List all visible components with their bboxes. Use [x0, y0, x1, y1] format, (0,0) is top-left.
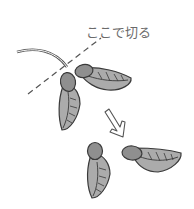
bottom-left-seed — [88, 143, 111, 199]
top-down-wing — [59, 86, 80, 130]
stem — [17, 50, 67, 67]
arrow-icon — [105, 109, 125, 137]
cut-here-label: ここで切る — [86, 22, 151, 41]
bottom-right-seed — [121, 145, 181, 172]
samara-illustration: ここで切る — [0, 0, 194, 209]
